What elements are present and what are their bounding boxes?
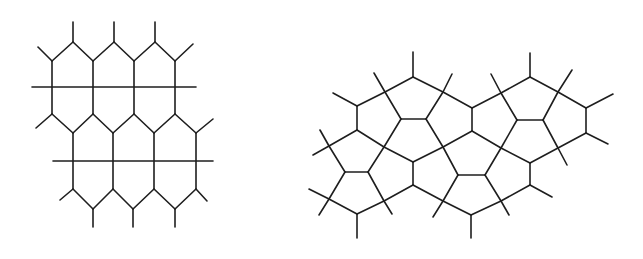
- tiling-edge: [485, 175, 501, 201]
- tiling-edge: [113, 114, 134, 133]
- tiling-edge: [329, 172, 345, 199]
- edge-stub: [309, 189, 329, 199]
- tiling-edge: [329, 146, 345, 172]
- tiling-edge: [329, 199, 357, 214]
- tiling-edge: [501, 93, 517, 120]
- tiling-edge: [175, 189, 196, 209]
- tiling-edge: [426, 92, 443, 119]
- edge-stub: [501, 201, 509, 215]
- edge-stub: [36, 114, 52, 128]
- tiling-edge: [543, 120, 558, 148]
- tiling-edge: [113, 189, 133, 209]
- edge-stub: [443, 74, 452, 92]
- tiling-edge: [558, 133, 586, 148]
- tiling-edge: [385, 92, 401, 119]
- tiling-edge: [134, 42, 155, 61]
- edge-stub: [175, 44, 193, 61]
- tiling-edge: [384, 147, 413, 162]
- tiling-edge: [154, 189, 175, 209]
- tiling-edge: [329, 130, 357, 146]
- edge-stub: [586, 94, 613, 108]
- tiling-edge: [413, 147, 443, 162]
- tiling-edge: [501, 77, 530, 93]
- tiling-edge: [73, 42, 93, 61]
- edge-stub: [60, 189, 73, 200]
- tiling-edge: [385, 77, 413, 92]
- tiling-edge: [368, 172, 384, 201]
- tiling-edge: [175, 114, 196, 133]
- tiling-edge: [384, 185, 413, 201]
- tiling-edge: [93, 42, 114, 61]
- tiling-edge: [426, 119, 443, 147]
- tiling-edge: [501, 120, 517, 148]
- tiling-edge: [443, 131, 472, 147]
- tiling-edge: [134, 114, 154, 133]
- cairo-pentagonal-tiling: [309, 52, 613, 238]
- tiling-edge: [155, 42, 175, 61]
- edge-stub: [196, 189, 207, 201]
- tiling-edge: [357, 92, 385, 106]
- edge-stub: [313, 146, 329, 155]
- tiling-edge: [530, 148, 558, 163]
- edge-stub: [374, 73, 385, 92]
- edge-stub: [558, 70, 572, 92]
- edge-stub: [196, 119, 213, 133]
- tiling-edge: [443, 175, 458, 201]
- tiling-edge: [52, 42, 73, 61]
- edge-stub: [320, 130, 329, 146]
- tiling-edge: [443, 201, 471, 215]
- tiling-edge: [154, 114, 175, 133]
- tiling-edge: [443, 92, 472, 108]
- tiling-edge: [543, 92, 558, 120]
- tiling-edge: [443, 147, 458, 175]
- tiling-edge: [357, 130, 384, 147]
- tiling-edge: [114, 42, 134, 61]
- tiling-edge: [413, 185, 443, 201]
- tiling-edge: [485, 148, 501, 175]
- tiling-diagrams: [0, 0, 643, 259]
- edge-stub: [433, 201, 443, 217]
- elongated-hexagon-tiling: [32, 22, 213, 227]
- edge-stub: [491, 74, 501, 93]
- edge-stub: [38, 47, 52, 61]
- tiling-edge: [384, 119, 401, 147]
- tiling-edge: [357, 201, 384, 214]
- edge-stub: [333, 93, 357, 106]
- tiling-edge: [368, 147, 384, 172]
- edge-stub: [558, 148, 567, 165]
- tiling-edge: [93, 114, 113, 133]
- tiling-edge: [73, 114, 93, 133]
- tiling-edge: [501, 185, 530, 201]
- edge-stub: [530, 185, 552, 197]
- tiling-edge: [471, 201, 501, 215]
- tiling-edge: [501, 148, 530, 163]
- tiling-edge: [558, 92, 586, 108]
- edge-stub: [319, 199, 329, 215]
- edge-stub: [384, 201, 392, 214]
- tiling-edge: [93, 189, 113, 209]
- tiling-edge: [73, 189, 93, 209]
- tiling-edge: [413, 77, 443, 92]
- tiling-edge: [472, 93, 501, 108]
- tiling-edge: [472, 131, 501, 148]
- tiling-edge: [52, 114, 73, 133]
- tiling-edge: [530, 77, 558, 92]
- tiling-edge: [133, 189, 154, 209]
- edge-stub: [586, 133, 608, 144]
